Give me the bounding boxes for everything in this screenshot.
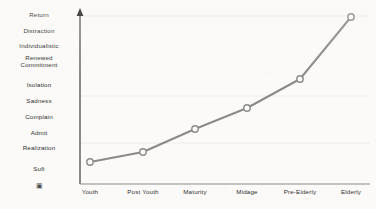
x-axis-label: Maturity [183, 188, 206, 196]
data-point-marker-post-youth[interactable] [140, 149, 146, 155]
data-point-marker-pre-elderly[interactable] [297, 76, 303, 82]
data-point-marker-maturity[interactable] [192, 126, 198, 132]
x-axis-label: Midage [236, 188, 257, 196]
x-axis-label: Youth [82, 188, 99, 196]
data-point-marker-midage[interactable] [244, 105, 250, 111]
data-point-marker-youth[interactable] [87, 159, 93, 165]
up-arrow-icon [77, 8, 84, 16]
data-point-marker-elderly[interactable] [348, 14, 354, 20]
chart-plot-area [0, 0, 376, 209]
chart-screenshot: ReturnDistractionIndividualisticRenewed … [0, 0, 376, 209]
x-axis-label-group: YouthPost YouthMaturityMidagePre-Elderly… [0, 188, 376, 202]
x-axis-label: Post Youth [127, 188, 158, 196]
gridline-group [80, 16, 370, 143]
data-point-marker-group [87, 14, 354, 165]
series-line-stage-progression [90, 17, 351, 162]
x-axis-label: Elderly [341, 188, 361, 196]
x-axis-label: Pre-Elderly [284, 188, 317, 196]
